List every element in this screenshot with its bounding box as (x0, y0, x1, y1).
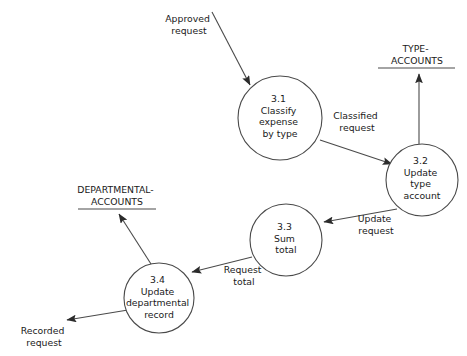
flow-request-total: Request total (192, 257, 264, 287)
flow-label-approved-request: Approved request (165, 13, 213, 36)
flow-arrow-classified-request (320, 140, 392, 164)
process-node-3-4[interactable]: 3.4 Update departmental record (124, 263, 194, 333)
process-label-3-3: 3.3 Sum total (274, 221, 298, 255)
flow-approved-request: Approved request (165, 12, 250, 85)
data-store-type-accounts: TYPE- ACCOUNTS (378, 43, 455, 68)
flow-label-recorded-request: Recorded request (21, 325, 68, 348)
diagram-canvas: Approved request Classified request Upda… (0, 0, 467, 356)
flow-arrow-approved-request (212, 12, 250, 85)
flow-label-classified-request: Classified request (333, 110, 381, 133)
flow-label-update-request: Update request (358, 213, 395, 236)
data-store-label-departmental-accounts: DEPARTMENTAL- ACCOUNTS (77, 184, 156, 207)
flow-label-request-total: Request total (224, 264, 265, 287)
process-node-3-3[interactable]: 3.3 Sum total (250, 204, 322, 276)
process-node-3-2[interactable]: 3.2 Update type account (386, 144, 458, 216)
flow-arrow-departmental-accounts-write (119, 214, 151, 264)
data-store-label-type-accounts: TYPE- ACCOUNTS (391, 43, 443, 66)
flow-recorded-request: Recorded request (21, 310, 128, 348)
process-node-3-1[interactable]: 3.1 Classify expense by type (238, 76, 322, 160)
flow-departmental-accounts-write (119, 214, 151, 264)
flow-update-request: Update request (324, 209, 397, 236)
flow-arrow-recorded-request (67, 310, 128, 320)
dfd-diagram: Approved request Classified request Upda… (0, 0, 467, 356)
data-store-departmental-accounts: DEPARTMENTAL- ACCOUNTS (77, 184, 156, 209)
flow-classified-request: Classified request (320, 110, 392, 164)
